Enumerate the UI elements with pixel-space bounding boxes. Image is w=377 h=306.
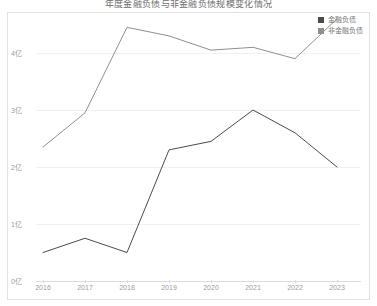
plot-area: 0亿1亿2亿3亿4亿 20162017201820192020202120222… [8,13,371,301]
series-layer [8,13,371,301]
legend-swatch-icon [318,28,324,34]
legend-item[interactable]: 金融负债 [318,16,363,24]
legend-item-label: 非金融负债 [328,27,363,35]
series-line [43,19,337,147]
series-line [43,110,337,253]
legend-swatch-icon [318,17,324,23]
page-title: 年度金融负债与非金融负债规模变化情况 [105,0,272,9]
chart-title-strip: 年度金融负债与非金融负债规模变化情况 [0,0,377,9]
chart-page: 年度金融负债与非金融负债规模变化情况 0亿1亿2亿3亿4亿 2016201720… [0,0,377,306]
chart-container: 0亿1亿2亿3亿4亿 20162017201820192020202120222… [7,12,370,300]
legend-item[interactable]: 非金融负债 [318,27,363,35]
chart-legend: 金融负债非金融负债 [318,16,363,35]
legend-item-label: 金融负债 [328,16,356,24]
